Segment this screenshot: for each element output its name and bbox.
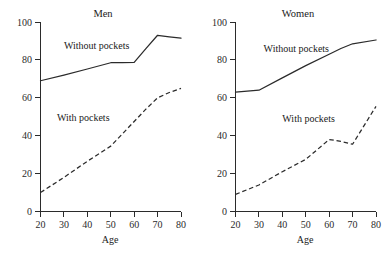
x-tick-label-80: 80 bbox=[371, 219, 381, 230]
x-tick-label-50: 50 bbox=[106, 219, 116, 230]
chart-root: Men 020406080100 20304050607080 Without … bbox=[0, 0, 391, 258]
x-tick-label-60: 60 bbox=[129, 219, 139, 230]
y-tick-label-20: 20 bbox=[22, 168, 32, 179]
chart-svg-women: Women 020406080100 20304050607080 Withou… bbox=[195, 0, 391, 258]
x-ticks-women: 20304050607080 bbox=[231, 212, 382, 231]
series-label-men-0: Without pockets bbox=[64, 40, 130, 51]
x-axis-title-men: Age bbox=[102, 234, 119, 245]
y-ticks-women: 020406080100 bbox=[212, 17, 236, 218]
y-tick-label-100: 100 bbox=[212, 17, 227, 28]
y-tick-label-80: 80 bbox=[22, 54, 32, 65]
y-tick-label-100: 100 bbox=[17, 17, 32, 28]
y-tick-label-20: 20 bbox=[217, 168, 227, 179]
series-line-men-with-pockets bbox=[41, 88, 182, 192]
y-tick-label-0: 0 bbox=[222, 206, 227, 217]
series-label-women-0: Without pockets bbox=[264, 43, 330, 54]
y-tick-label-0: 0 bbox=[27, 206, 32, 217]
panel-title-women: Women bbox=[282, 8, 315, 19]
series-label-men-1: With pockets bbox=[57, 112, 110, 123]
x-tick-label-20: 20 bbox=[36, 219, 46, 230]
chart-panel-women: Women 020406080100 20304050607080 Withou… bbox=[195, 0, 391, 258]
x-tick-label-40: 40 bbox=[277, 219, 287, 230]
y-tick-label-40: 40 bbox=[22, 130, 32, 141]
x-tick-label-30: 30 bbox=[254, 219, 264, 230]
x-tick-label-20: 20 bbox=[231, 219, 241, 230]
panel-title-men: Men bbox=[93, 8, 113, 19]
y-tick-label-60: 60 bbox=[22, 92, 32, 103]
x-tick-label-40: 40 bbox=[82, 219, 92, 230]
x-tick-label-80: 80 bbox=[176, 219, 186, 230]
series-label-women-1: With pockets bbox=[282, 113, 335, 124]
x-tick-label-30: 30 bbox=[59, 219, 69, 230]
y-tick-label-60: 60 bbox=[217, 92, 227, 103]
y-tick-label-40: 40 bbox=[217, 130, 227, 141]
y-tick-label-80: 80 bbox=[217, 54, 227, 65]
x-tick-label-70: 70 bbox=[348, 219, 358, 230]
x-tick-label-70: 70 bbox=[153, 219, 163, 230]
chart-svg-men: Men 020406080100 20304050607080 Without … bbox=[0, 0, 196, 258]
x-ticks-men: 20304050607080 bbox=[36, 212, 187, 231]
x-axis-title-women: Age bbox=[297, 234, 314, 245]
x-tick-label-60: 60 bbox=[324, 219, 334, 230]
x-tick-label-50: 50 bbox=[301, 219, 311, 230]
chart-panel-men: Men 020406080100 20304050607080 Without … bbox=[0, 0, 196, 258]
y-ticks-men: 020406080100 bbox=[17, 17, 41, 218]
